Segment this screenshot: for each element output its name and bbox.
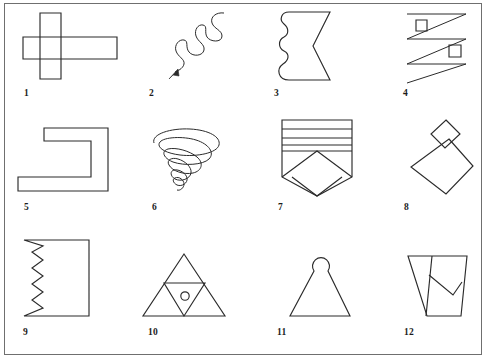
figure-5-bracket-c-shape [16,125,112,195]
figure-2-wavy-line-with-arrow [148,10,228,86]
figure-9-number: 9 [23,328,28,338]
figure-11-number: 11 [277,328,287,338]
figure-7-number: 7 [278,203,283,213]
figure-10-triangle-with-inverted-triangle-and-circle [141,252,227,320]
figure-3-number: 3 [274,89,279,99]
figure-9-rectangle-with-sawtooth-edge [19,238,97,320]
figure-10-number: 10 [148,328,158,338]
figure-1-number: 1 [24,89,29,99]
figure-7-striped-shield-with-chevron [279,117,355,199]
figure-6-number: 6 [152,203,157,213]
figure-5-number: 5 [24,203,29,213]
figure-6-conical-spiral [145,126,227,198]
figure-4-number: 4 [403,89,408,99]
figure-1-overlapping-rectangles-cross [18,10,122,84]
figure-8-number: 8 [404,203,409,213]
figure-11-triangle-with-circle-finial [285,252,357,320]
figure-12-inverted-trapezoid-divided [405,253,473,325]
figure-sheet: 1 2 3 4 5 6 [0,0,487,359]
figure-3-wavy-left-chevron-right-shape [272,9,354,85]
figure-4-zigzag-with-two-squares [404,11,474,83]
figure-8-stacked-diamonds [404,117,476,197]
figure-2-number: 2 [149,89,154,99]
figure-12-number: 12 [404,328,414,338]
